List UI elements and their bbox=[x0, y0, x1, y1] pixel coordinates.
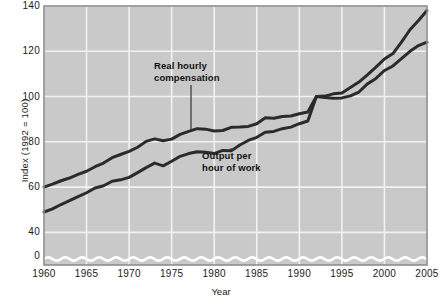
x-tick-1960: 1960 bbox=[22, 268, 66, 279]
x-tick-2005: 2005 bbox=[405, 268, 442, 279]
x-tick-1980: 1980 bbox=[192, 268, 236, 279]
x-tick-2000: 2000 bbox=[362, 268, 406, 279]
annotation-real-hourly-compensation: Real hourly compensation bbox=[154, 60, 220, 84]
x-tick-1985: 1985 bbox=[235, 268, 279, 279]
annotation-line-2: compensation bbox=[154, 72, 220, 84]
plot-background bbox=[44, 6, 427, 265]
annotation-output-per-hour-of-work: Output per hour of work bbox=[202, 150, 261, 174]
x-tick-1990: 1990 bbox=[277, 268, 321, 279]
chart-container: Index (1992 = 100) 140 120 100 80 60 40 … bbox=[0, 0, 442, 304]
annotation-line-1: Output per bbox=[202, 150, 261, 162]
x-tick-1970: 1970 bbox=[107, 268, 151, 279]
x-tick-1965: 1965 bbox=[65, 268, 109, 279]
x-tick-1995: 1995 bbox=[320, 268, 364, 279]
annotation-line-2: hour of work bbox=[202, 162, 261, 174]
x-tick-1975: 1975 bbox=[150, 268, 194, 279]
annotation-line-1: Real hourly bbox=[154, 60, 220, 72]
x-axis-title: Year bbox=[0, 286, 442, 297]
